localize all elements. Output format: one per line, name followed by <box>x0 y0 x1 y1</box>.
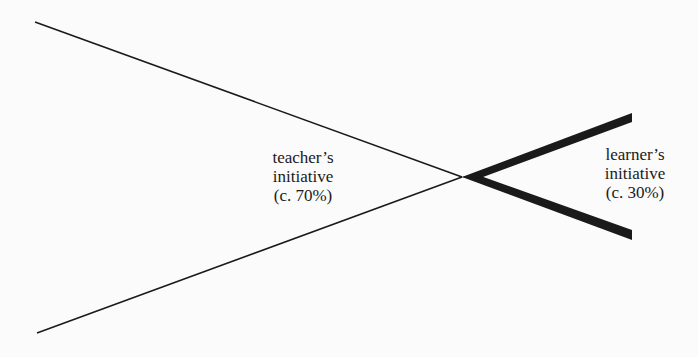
initiative-diagram: teacher’s initiative (c. 70%) learner’s … <box>0 0 698 357</box>
teacher-label-line1: teacher’s <box>248 148 358 167</box>
learner-label-line3: (c. 30%) <box>585 183 685 202</box>
teacher-label-line2: initiative <box>248 167 358 186</box>
teacher-initiative-label: teacher’s initiative (c. 70%) <box>248 148 358 205</box>
learner-label-line2: initiative <box>585 164 685 183</box>
learner-label-line1: learner’s <box>585 145 685 164</box>
teacher-label-line3: (c. 70%) <box>248 186 358 205</box>
learner-initiative-label: learner’s initiative (c. 30%) <box>585 145 685 202</box>
